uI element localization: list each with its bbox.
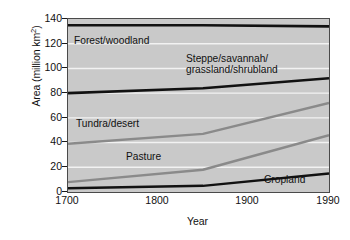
- x-axis-title: Year: [67, 215, 328, 227]
- plot-area: Forest/woodland Steppe/savannah/ grassla…: [67, 18, 330, 193]
- series-label-steppe-line1: Steppe/savannah/: [186, 53, 268, 65]
- series-line-0: [68, 25, 329, 26]
- x-tick-label-1800: 1800: [129, 194, 185, 206]
- series-label-cropland: Cropland: [264, 174, 305, 186]
- series-lines: [68, 25, 329, 188]
- x-tick-label-1900: 1900: [219, 194, 275, 206]
- y-tick-label-60: 60: [32, 112, 62, 122]
- y-tick-label-40: 40: [32, 136, 62, 146]
- y-tick-label-100: 100: [32, 62, 62, 72]
- series-label-forest-woodland: Forest/woodland: [74, 35, 149, 47]
- x-tick-label-1700: 1700: [39, 194, 95, 206]
- chart-figure: Area (million km2) 140 120 100 80 60 40 …: [0, 0, 350, 240]
- x-tick-label-1990: 1990: [300, 194, 350, 206]
- y-tick-label-120: 120: [32, 38, 62, 48]
- series-label-steppe-line2: grassland/shrubland: [186, 64, 278, 76]
- y-tick-label-140: 140: [32, 13, 62, 23]
- y-tick-label-20: 20: [32, 161, 62, 171]
- series-label-pasture: Pasture: [126, 151, 161, 163]
- series-label-tundra-desert: Tundra/desert: [76, 118, 139, 130]
- series-line-1: [68, 78, 329, 93]
- y-tick-label-80: 80: [32, 87, 62, 97]
